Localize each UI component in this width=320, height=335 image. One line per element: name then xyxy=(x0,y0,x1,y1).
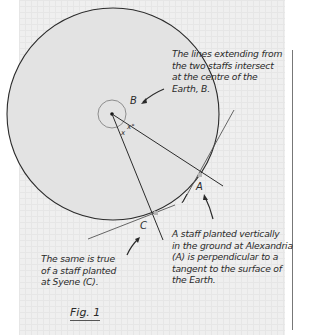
note-alexandria-staff: A staff planted vertically in the ground… xyxy=(172,228,293,286)
tangent-a-pointer-icon xyxy=(182,194,187,203)
note-syene-staff: The same is true of a staff planted at S… xyxy=(41,253,116,288)
angle-label: x° xyxy=(127,123,135,131)
note-center-intersection: The lines extending from the two staffs … xyxy=(172,48,282,94)
arrow-to-a-icon xyxy=(205,197,213,219)
arrow-to-c-icon xyxy=(127,239,138,255)
label-a: A xyxy=(196,181,203,192)
point-c-marker xyxy=(154,211,158,215)
label-b: B xyxy=(130,95,137,106)
point-a-marker xyxy=(198,173,202,177)
angle-label-2: x xyxy=(121,129,125,137)
label-c: C xyxy=(140,220,147,231)
figure-caption: Fig. 1 xyxy=(70,306,100,321)
